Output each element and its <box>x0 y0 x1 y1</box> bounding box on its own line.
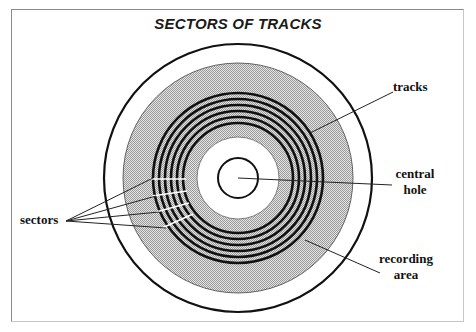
label-sectors: sectors <box>20 212 58 228</box>
label-recording-area: recording area <box>375 251 437 283</box>
label-central-hole-line2: hole <box>392 182 438 198</box>
label-recording-area-line1: recording <box>375 251 437 267</box>
label-tracks: tracks <box>393 79 428 95</box>
label-recording-area-line2: area <box>375 267 437 283</box>
label-central-hole: central hole <box>392 166 438 198</box>
label-central-hole-line1: central <box>392 166 438 182</box>
